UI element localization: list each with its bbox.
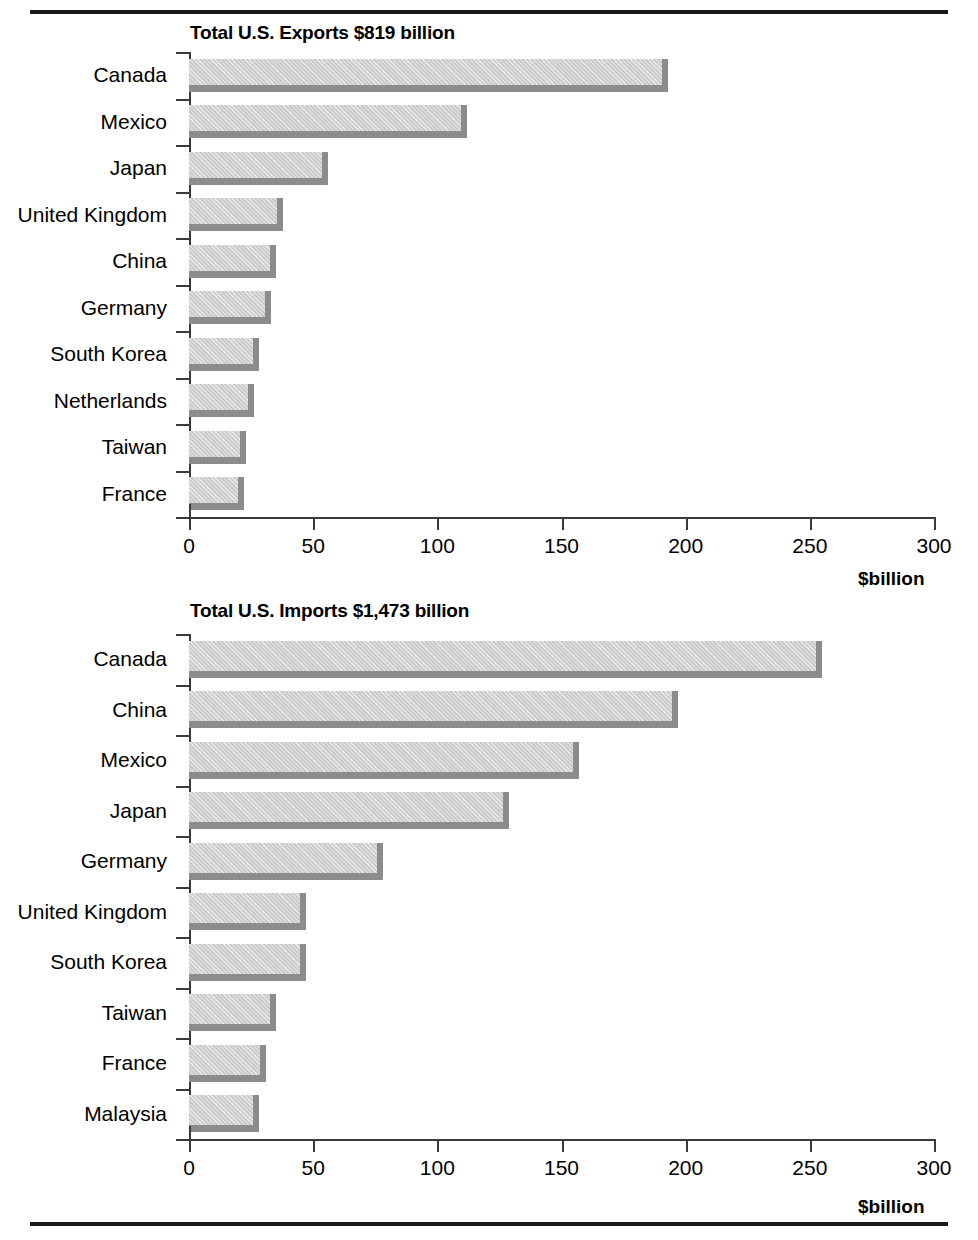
- y-axis-tick: [176, 1038, 189, 1040]
- y-axis-category-label: Canada: [0, 63, 167, 87]
- x-axis-tick: [437, 1139, 439, 1152]
- y-axis-tick: [176, 424, 189, 426]
- bar: [189, 59, 668, 92]
- x-axis-tick: [934, 1139, 936, 1152]
- y-axis-category-label: Germany: [0, 849, 167, 873]
- bar-face: [189, 338, 253, 364]
- bar: [189, 431, 246, 464]
- y-axis-tick: [176, 285, 189, 287]
- x-axis-tick-label: 50: [301, 1156, 324, 1180]
- y-axis-tick: [176, 99, 189, 101]
- y-axis-tick: [176, 192, 189, 194]
- y-axis-tick: [176, 145, 189, 147]
- y-axis-category-label: United Kingdom: [0, 203, 167, 227]
- bar-face: [189, 431, 240, 457]
- figure-page: Total U.S. Exports $819 billion CanadaMe…: [0, 0, 978, 1240]
- bar-face: [189, 691, 672, 721]
- bar-face: [189, 152, 322, 178]
- y-axis-tick: [176, 887, 189, 889]
- y-axis-category-label: China: [0, 698, 167, 722]
- bar-face: [189, 893, 300, 923]
- bar: [189, 245, 276, 278]
- bar-shadow-bottom: [189, 317, 271, 324]
- bar-face: [189, 105, 461, 131]
- bar-shadow-bottom: [189, 923, 306, 930]
- x-axis-tick: [313, 1139, 315, 1152]
- x-axis-tick: [437, 517, 439, 530]
- y-axis-tick: [176, 685, 189, 687]
- exports-axis-unit-label: $billion: [858, 568, 925, 590]
- bar-shadow-bottom: [189, 1075, 266, 1082]
- bar: [189, 944, 306, 981]
- y-axis-category-label: Netherlands: [0, 389, 167, 413]
- bar-face: [189, 843, 377, 873]
- x-axis-tick: [189, 1139, 191, 1152]
- imports-chart-title: Total U.S. Imports $1,473 billion: [190, 600, 469, 622]
- x-axis-tick-label: 0: [183, 1156, 195, 1180]
- bar: [189, 477, 244, 510]
- x-axis-tick: [562, 1139, 564, 1152]
- y-axis-tick: [176, 1089, 189, 1091]
- bar-face: [189, 944, 300, 974]
- y-axis-category-label: France: [0, 1051, 167, 1075]
- bar-shadow-bottom: [189, 822, 509, 829]
- x-axis-tick-label: 250: [792, 534, 827, 558]
- bar-face: [189, 198, 277, 224]
- x-axis-tick-label: 100: [420, 1156, 455, 1180]
- x-axis-tick-label: 50: [301, 534, 324, 558]
- origin-tick: [189, 1126, 191, 1139]
- imports-chart: Total U.S. Imports $1,473 billion Canada…: [0, 596, 978, 1216]
- exports-chart: Total U.S. Exports $819 billion CanadaMe…: [0, 16, 978, 586]
- x-axis-tick: [562, 517, 564, 530]
- top-rule: [30, 10, 948, 14]
- bar: [189, 152, 328, 185]
- bottom-rule: [30, 1222, 948, 1226]
- bar: [189, 843, 383, 880]
- y-axis-tick: [176, 634, 189, 636]
- y-axis-category-label: South Korea: [0, 342, 167, 366]
- imports-axis-unit-label: $billion: [858, 1196, 925, 1218]
- y-axis-category-label: Japan: [0, 156, 167, 180]
- y-axis-category-label: Mexico: [0, 110, 167, 134]
- bar-shadow-bottom: [189, 873, 383, 880]
- y-axis-category-label: Canada: [0, 647, 167, 671]
- y-axis-tick: [176, 836, 189, 838]
- y-axis-tick: [176, 988, 189, 990]
- bar-shadow-bottom: [189, 364, 259, 371]
- y-axis-tick: [176, 471, 189, 473]
- bar-shadow-bottom: [189, 772, 579, 779]
- bar-shadow-bottom: [189, 1024, 276, 1031]
- bar-shadow-bottom: [189, 671, 822, 678]
- x-axis-tick: [810, 517, 812, 530]
- y-axis-tick: [176, 937, 189, 939]
- x-axis-tick: [810, 1139, 812, 1152]
- bar: [189, 994, 276, 1031]
- exports-chart-title: Total U.S. Exports $819 billion: [190, 22, 455, 44]
- bar-shadow-bottom: [189, 410, 254, 417]
- bar-face: [189, 742, 573, 772]
- bar-face: [189, 1095, 253, 1125]
- y-axis-category-label: France: [0, 482, 167, 506]
- bar: [189, 198, 283, 231]
- bar-shadow-bottom: [189, 178, 328, 185]
- bar: [189, 1045, 266, 1082]
- bar: [189, 1095, 259, 1132]
- bar-shadow-bottom: [189, 503, 244, 510]
- bar-shadow-bottom: [189, 974, 306, 981]
- bar-shadow-bottom: [189, 1125, 259, 1132]
- y-axis-category-label: Taiwan: [0, 1001, 167, 1025]
- bar-shadow-bottom: [189, 271, 276, 278]
- bar: [189, 792, 509, 829]
- bar-face: [189, 384, 248, 410]
- origin-tick: [189, 504, 191, 517]
- bar-shadow-bottom: [189, 131, 467, 138]
- y-axis-category-label: South Korea: [0, 950, 167, 974]
- x-axis-tick-label: 300: [916, 534, 951, 558]
- bar: [189, 384, 254, 417]
- bar: [189, 641, 822, 678]
- x-axis-tick: [686, 1139, 688, 1152]
- bar: [189, 105, 467, 138]
- bar-face: [189, 245, 270, 271]
- y-axis-category-label: China: [0, 249, 167, 273]
- bar-face: [189, 792, 503, 822]
